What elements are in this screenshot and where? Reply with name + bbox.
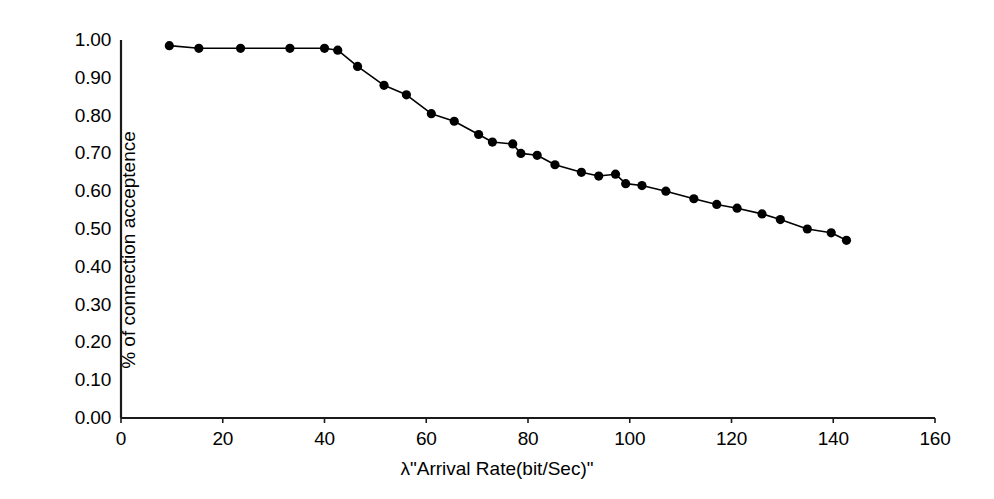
data-point-marker bbox=[488, 137, 497, 146]
line-chart-plot-area bbox=[0, 0, 994, 499]
data-point-marker bbox=[165, 41, 174, 50]
x-axis-tick-label: 80 bbox=[518, 428, 539, 450]
data-point-marker bbox=[733, 204, 742, 213]
y-axis-title: % of connection acceptence bbox=[118, 131, 140, 369]
data-point-marker bbox=[333, 46, 342, 55]
data-point-marker bbox=[637, 181, 646, 190]
axis-lines bbox=[121, 40, 935, 418]
y-axis-tick-label: 0.80 bbox=[43, 105, 111, 127]
x-axis-title: λ"Arrival Rate(bit/Sec)" bbox=[0, 458, 994, 480]
x-axis-tick-label: 140 bbox=[818, 428, 849, 450]
y-axis-tick-label: 0.10 bbox=[43, 369, 111, 391]
x-axis-tick-label: 40 bbox=[314, 428, 335, 450]
y-axis-tick-label: 0.00 bbox=[43, 407, 111, 429]
data-point-marker bbox=[427, 109, 436, 118]
x-axis-tick-label: 160 bbox=[919, 428, 950, 450]
x-axis-tick-label: 100 bbox=[614, 428, 645, 450]
data-point-marker bbox=[379, 81, 388, 90]
data-point-marker bbox=[827, 228, 836, 237]
data-point-marker bbox=[842, 236, 851, 245]
data-point-marker bbox=[516, 149, 525, 158]
data-point-marker bbox=[533, 151, 542, 160]
data-series-line bbox=[169, 46, 846, 241]
y-axis-tick-label: 0.70 bbox=[43, 142, 111, 164]
y-axis-tick-label: 0.50 bbox=[43, 218, 111, 240]
data-point-marker bbox=[594, 171, 603, 180]
data-point-marker bbox=[402, 90, 411, 99]
x-axis-tick-label: 0 bbox=[116, 428, 126, 450]
y-axis-tick-label: 0.40 bbox=[43, 256, 111, 278]
data-point-marker bbox=[757, 209, 766, 218]
y-axis-tick-label: 0.90 bbox=[43, 67, 111, 89]
data-point-marker bbox=[577, 168, 586, 177]
data-point-marker bbox=[285, 44, 294, 53]
data-point-marker bbox=[661, 187, 670, 196]
data-point-marker bbox=[689, 194, 698, 203]
y-axis-tick-label: 0.30 bbox=[43, 294, 111, 316]
data-point-marker bbox=[194, 44, 203, 53]
y-axis-tick-label: 0.20 bbox=[43, 331, 111, 353]
data-point-marker bbox=[508, 139, 517, 148]
x-axis-tick-label: 20 bbox=[212, 428, 233, 450]
data-point-marker bbox=[450, 117, 459, 126]
chart-figure: 0.000.100.200.300.400.500.600.700.800.90… bbox=[0, 0, 994, 499]
data-point-marker bbox=[712, 200, 721, 209]
data-point-marker bbox=[621, 179, 630, 188]
data-point-marker bbox=[236, 44, 245, 53]
y-axis-tick-label: 1.00 bbox=[43, 29, 111, 51]
y-axis-tick-label: 0.60 bbox=[43, 180, 111, 202]
data-point-marker bbox=[320, 44, 329, 53]
x-axis-tick-label: 60 bbox=[416, 428, 437, 450]
x-axis-tick-label: 120 bbox=[716, 428, 747, 450]
data-point-marker bbox=[550, 160, 559, 169]
data-point-marker bbox=[474, 130, 483, 139]
data-point-marker bbox=[803, 224, 812, 233]
data-point-marker bbox=[353, 62, 362, 71]
data-point-marker bbox=[611, 170, 620, 179]
data-point-marker bbox=[776, 215, 785, 224]
